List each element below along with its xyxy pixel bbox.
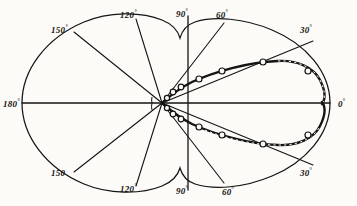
degree-symbol: ° xyxy=(17,98,20,104)
angle-label-text: 120 xyxy=(120,184,134,194)
angle-label-120-upper: 120° xyxy=(120,9,137,20)
angle-label-text: 180 xyxy=(3,99,17,109)
degree-symbol: ° xyxy=(232,186,235,192)
angle-label-text: 120 xyxy=(120,10,134,20)
angle-label-90-upper: 90° xyxy=(176,8,188,19)
data-point xyxy=(170,111,176,117)
spoke-30-upper xyxy=(162,41,313,103)
spoke-120-upper xyxy=(136,19,162,103)
measured-curve-upper-dash-overlay xyxy=(278,61,324,104)
angle-label-60-lower: 60° xyxy=(222,186,234,197)
data-point xyxy=(178,84,184,90)
degree-symbol: ° xyxy=(134,9,137,15)
angle-label-text: 90 xyxy=(176,9,186,19)
degree-symbol: ° xyxy=(310,24,313,30)
data-point xyxy=(219,132,225,138)
data-point xyxy=(219,68,225,74)
measured-curve-lower xyxy=(162,102,324,145)
spoke-30-lower xyxy=(162,103,313,165)
degree-symbol: ° xyxy=(186,185,189,191)
data-point xyxy=(164,95,169,100)
angle-label-180-left: 180° xyxy=(3,98,20,109)
angle-label-90-lower: 90° xyxy=(176,185,188,196)
angle-label-text: 150 xyxy=(51,168,65,178)
measured-curve-upper xyxy=(162,61,324,104)
radial-spokes xyxy=(22,16,330,190)
angle-label-0-right: 0° xyxy=(338,98,346,109)
data-point xyxy=(164,105,169,110)
data-point xyxy=(196,76,202,82)
angle-label-120-lower: 120° xyxy=(120,183,137,194)
origin-arc-lower xyxy=(151,103,152,110)
spoke-150-lower xyxy=(74,103,162,172)
angle-label-30-upper: 30° xyxy=(300,24,312,35)
angle-label-60-upper: 60° xyxy=(216,9,228,20)
angle-label-150-upper: 150° xyxy=(51,24,68,35)
data-point xyxy=(196,124,202,130)
spoke-150-upper xyxy=(74,32,162,103)
spoke-120-lower xyxy=(136,103,162,186)
data-point xyxy=(260,141,266,147)
degree-symbol: ° xyxy=(134,183,137,189)
data-point xyxy=(170,89,176,95)
polar-diagram-figure: 150° 120° 90° 60° 30° 180° 0° 30° 60° 90… xyxy=(0,0,357,206)
data-markers-upper xyxy=(164,59,311,101)
degree-symbol: ° xyxy=(343,98,346,104)
angle-label-text: 150 xyxy=(51,25,65,35)
angle-label-30-lower: 30° xyxy=(300,167,312,178)
angle-label-text: 60 xyxy=(216,10,226,20)
angle-label-text: 60 xyxy=(222,187,232,197)
degree-symbol: ° xyxy=(310,167,313,173)
angle-label-text: 30 xyxy=(300,168,310,178)
data-point xyxy=(305,68,311,74)
origin-tick-marks xyxy=(151,97,152,110)
data-point xyxy=(305,132,311,138)
angle-label-text: 30 xyxy=(300,25,310,35)
angle-label-text: 90 xyxy=(176,186,186,196)
data-markers-lower xyxy=(164,105,311,147)
angle-label-150-lower: 150 xyxy=(51,167,65,178)
degree-symbol: ° xyxy=(226,9,229,15)
data-point xyxy=(178,116,184,122)
data-point xyxy=(260,59,266,65)
degree-symbol: ° xyxy=(65,24,68,30)
degree-symbol: ° xyxy=(186,8,189,14)
